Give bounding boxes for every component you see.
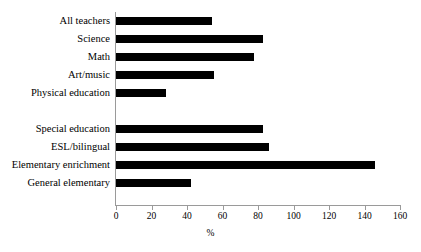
chart-row: ESL/bilingual [0,138,421,156]
x-axis-title: % [0,228,421,239]
chart-row: General elementary [0,174,421,192]
chart-row-empty [0,102,421,120]
bar [116,53,254,61]
x-axis-tick-label: 60 [218,211,228,222]
x-axis-tick [258,206,259,210]
x-axis-tick [152,206,153,210]
category-label: ESL/bilingual [0,138,110,156]
bar [116,89,166,97]
chart-row: Art/music [0,66,421,84]
x-axis-tick [329,206,330,210]
chart-row: Science [0,30,421,48]
x-axis-tick [187,206,188,210]
x-axis-tick [116,206,117,210]
x-axis-tick-label: 80 [253,211,263,222]
category-label: Art/music [0,66,110,84]
chart-row: Physical education [0,84,421,102]
x-axis-tick-label: 140 [357,211,371,222]
x-axis-tick-label: 100 [286,211,300,222]
x-axis-tick [223,206,224,210]
x-axis-tick-label: 40 [182,211,192,222]
x-axis-tick [365,206,366,210]
bar [116,35,263,43]
x-axis-tick-label: 120 [322,211,336,222]
bar [116,161,375,169]
bar [116,179,191,187]
category-label [0,102,110,120]
bar-chart: All teachersScienceMathArt/musicPhysical… [0,0,421,252]
category-label: Math [0,48,110,66]
x-axis-tick [400,206,401,210]
category-label: Science [0,30,110,48]
category-label: All teachers [0,12,110,30]
category-label: Special education [0,120,110,138]
bar [116,17,212,25]
x-axis-tick-label: 20 [147,211,157,222]
category-label: General elementary [0,174,110,192]
chart-row: Elementary enrichment [0,156,421,174]
bar [116,143,269,151]
category-label: Physical education [0,84,110,102]
chart-row: Special education [0,120,421,138]
chart-row: Math [0,48,421,66]
x-axis-tick-label: 160 [393,211,407,222]
bar [116,125,263,133]
x-axis-tick [294,206,295,210]
chart-row: All teachers [0,12,421,30]
x-axis-tick-label: 0 [114,211,119,222]
bar [116,71,214,79]
category-label: Elementary enrichment [0,156,110,174]
